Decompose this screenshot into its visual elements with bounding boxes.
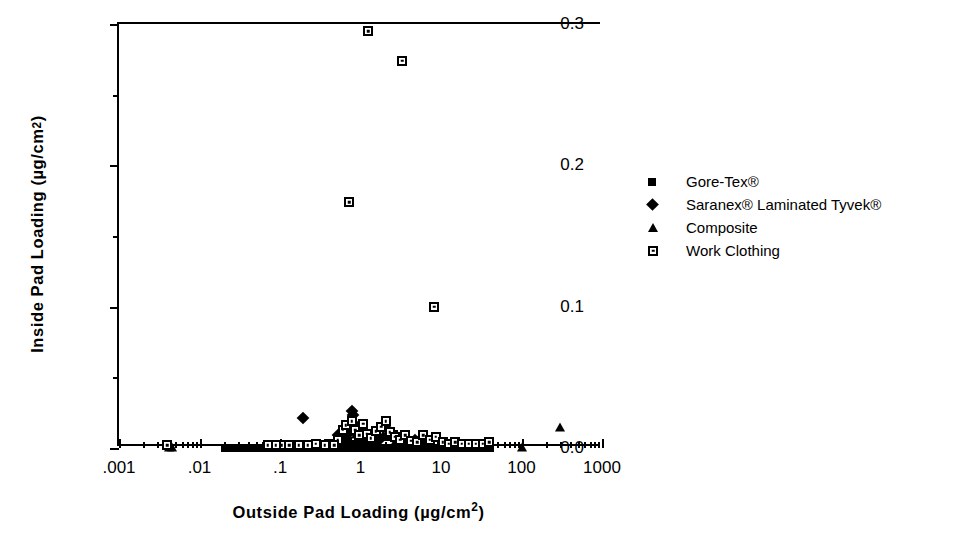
data-points-layer (119, 24, 602, 448)
data-point (305, 444, 313, 452)
data-point (337, 434, 346, 443)
data-point (367, 437, 375, 445)
data-point (162, 440, 172, 450)
y-tick-major (110, 448, 119, 450)
filled-triangle-icon (648, 223, 686, 232)
data-point (471, 439, 481, 449)
data-point (301, 444, 309, 452)
data-point (419, 444, 427, 452)
data-point (478, 439, 488, 449)
data-point (303, 440, 313, 450)
data-point (418, 430, 428, 440)
data-point (364, 444, 372, 452)
data-point (390, 430, 398, 438)
legend-item: Work Clothing (648, 239, 958, 262)
data-point (339, 425, 348, 434)
data-point (344, 427, 354, 436)
data-point (391, 435, 401, 444)
data-point (341, 436, 350, 445)
data-point (272, 444, 280, 452)
data-point (478, 444, 486, 452)
data-point (348, 440, 356, 448)
data-point (354, 436, 362, 444)
data-point (351, 429, 361, 438)
data-point (338, 425, 348, 435)
data-point (314, 444, 322, 452)
data-point (464, 439, 474, 449)
data-point (347, 407, 356, 416)
data-point (394, 444, 402, 452)
data-point (517, 442, 527, 451)
legend: Gore-Tex® Saranex® Laminated Tyvek®Compo… (648, 170, 958, 262)
data-point (263, 444, 271, 452)
data-point (438, 437, 448, 447)
data-point (486, 444, 494, 452)
x-tick-label: 1 (356, 458, 365, 478)
data-point (329, 440, 339, 450)
data-point (387, 431, 396, 440)
data-point (254, 444, 262, 452)
data-point (414, 436, 422, 444)
data-point (250, 444, 258, 452)
data-point (457, 444, 465, 452)
x-tick-label: .1 (273, 458, 287, 478)
data-point (425, 440, 433, 448)
data-point (420, 438, 428, 446)
data-point (246, 444, 254, 452)
x-tick-major (602, 439, 604, 448)
scatter-plot-figure: Inside Pad Loading (µg/cm2) Outside Pad … (0, 0, 978, 542)
data-point (484, 437, 494, 447)
data-point (453, 444, 461, 452)
data-point (309, 444, 317, 452)
data-point (368, 444, 376, 452)
data-point (322, 444, 330, 452)
data-point (360, 444, 368, 452)
data-point (396, 434, 405, 443)
y-tick-major (110, 165, 119, 167)
data-point (351, 421, 360, 430)
data-point (259, 444, 267, 452)
data-point (335, 444, 343, 452)
data-point (354, 427, 363, 436)
data-point (350, 425, 360, 435)
data-point (450, 437, 460, 447)
x-tick-label: .01 (188, 458, 212, 478)
data-point (280, 444, 288, 452)
data-point (344, 437, 352, 445)
data-point (267, 444, 275, 452)
data-point (277, 440, 287, 450)
legend-item: Gore-Tex® (648, 170, 958, 193)
data-point (389, 444, 397, 452)
data-point (333, 435, 343, 445)
data-point (320, 440, 330, 450)
x-tick-label: 100 (507, 458, 535, 478)
data-point (366, 433, 376, 443)
data-point (382, 433, 390, 441)
data-point (429, 302, 439, 312)
data-point (344, 429, 353, 438)
data-point (461, 444, 469, 452)
y-axis-title: Inside Pad Loading (µg/cm2) (22, 22, 52, 446)
data-point (386, 427, 394, 435)
data-point (343, 444, 351, 452)
data-point (347, 444, 355, 452)
data-point (369, 434, 378, 443)
data-point (226, 444, 234, 452)
y-axis-title-tail: ) (28, 115, 47, 121)
data-point (412, 437, 422, 447)
data-point (363, 26, 373, 36)
y-tick-major (110, 24, 119, 26)
data-point (324, 439, 334, 449)
data-point (351, 444, 359, 452)
data-point (362, 429, 372, 439)
filled-square-icon (648, 178, 686, 186)
data-point (358, 438, 366, 446)
data-point (221, 444, 229, 452)
data-point (399, 437, 407, 445)
data-point (354, 430, 364, 440)
x-tick-label: 10 (432, 458, 451, 478)
data-point (402, 444, 410, 452)
data-point (375, 435, 384, 444)
data-point (347, 416, 357, 426)
legend-item-label: Composite (686, 219, 758, 236)
